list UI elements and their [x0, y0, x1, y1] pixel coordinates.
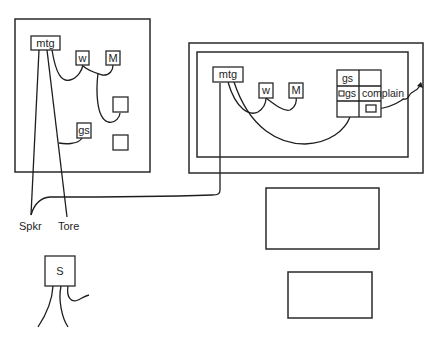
grid-cell-complain[interactable]: complain	[362, 87, 404, 99]
wire-w-M-right	[266, 98, 296, 110]
right-panel: mtg w M gs gs complain	[189, 43, 423, 173]
node-label: S	[56, 265, 63, 277]
node-gs-left[interactable]: gs	[77, 123, 91, 138]
node-empty-square-2[interactable]	[113, 135, 128, 150]
left-panel: mtg w M gs	[15, 19, 150, 172]
right-panel-outer-frame	[189, 43, 423, 173]
label-spkr: Spkr	[19, 220, 42, 232]
node-w-left[interactable]: w	[76, 51, 89, 65]
node-label: mtg	[36, 37, 54, 49]
node-label: M	[291, 84, 300, 96]
node-label: gs	[78, 124, 90, 136]
grid-cell-port[interactable]	[366, 105, 376, 112]
wire-s-1	[38, 286, 53, 327]
label-tore: Tore	[58, 220, 79, 232]
node-S[interactable]: S	[45, 256, 75, 286]
grid-cell-gs-checkbox[interactable]: gs	[345, 87, 356, 99]
node-w-right[interactable]: w	[259, 83, 273, 98]
diagram-canvas: mtg w M gs Spkr Tore mtg	[0, 0, 440, 340]
empty-box-1[interactable]	[266, 188, 379, 249]
node-label: w	[261, 84, 270, 96]
wire-gs	[59, 138, 82, 144]
node-M-left[interactable]: M	[106, 51, 120, 65]
wire-s-3	[68, 286, 89, 301]
wire-s-2	[60, 286, 68, 327]
wire-mtg-spkr	[31, 50, 39, 215]
node-mtg-left[interactable]: mtg	[31, 36, 60, 50]
grid-table: gs gs complain	[337, 70, 404, 117]
arrowhead-icon	[417, 82, 423, 88]
node-label: M	[108, 52, 117, 64]
node-label: w	[78, 52, 87, 64]
node-mtg-right[interactable]: mtg	[213, 67, 243, 82]
node-M-right[interactable]: M	[289, 83, 303, 98]
node-empty-square-1[interactable]	[113, 97, 128, 112]
empty-box-2[interactable]	[288, 272, 372, 318]
node-label: mtg	[219, 68, 237, 80]
grid-cell-gs[interactable]: gs	[342, 72, 353, 84]
wire-mtg-tore	[47, 50, 67, 217]
